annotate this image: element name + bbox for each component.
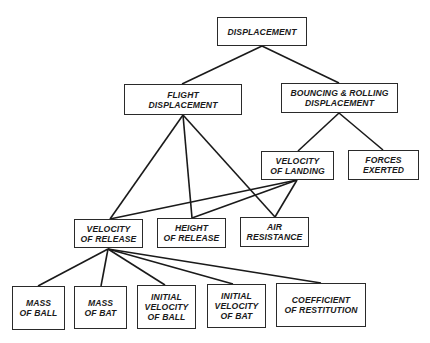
edge-displacement-to-flight-displacement [182, 46, 262, 84]
node-initial-velocity-of-bat: INITIAL VELOCITY OF BAT [207, 284, 266, 328]
node-velocity-of-landing: VELOCITY OF LANDING [261, 151, 334, 180]
edge-velocity-of-landing-to-air-resistance [275, 180, 297, 217]
node-flight-displacement: FLIGHT DISPLACEMENT [124, 84, 242, 115]
node-bouncing-rolling-displacement: BOUNCING & ROLLING DISPLACEMENT [281, 83, 398, 113]
node-coefficient-of-restitution: COEFFICIENT OF RESTITUTION [276, 283, 366, 327]
node-displacement: DISPLACEMENT [217, 17, 307, 46]
node-mass-of-bat: MASS OF BAT [74, 286, 127, 329]
edge-velocity-of-release-to-mass-of-ball [38, 249, 108, 286]
edge-velocity-of-release-to-mass-of-bat [101, 249, 108, 286]
node-forces-exerted: FORCES EXERTED [348, 150, 419, 180]
edge-velocity-of-release-to-initial-velocity-of-ball [108, 249, 165, 285]
node-velocity-of-release: VELOCITY OF RELEASE [74, 219, 143, 248]
node-initial-velocity-of-ball: INITIAL VELOCITY OF BALL [137, 285, 196, 329]
edge-bouncing-rolling-displacement-to-velocity-of-landing [298, 113, 339, 151]
node-mass-of-ball: MASS OF BALL [12, 286, 65, 330]
edge-displacement-to-bouncing-rolling-displacement [262, 46, 339, 83]
edge-bouncing-rolling-displacement-to-forces-exerted [339, 113, 383, 150]
edge-velocity-of-release-to-coefficient-of-restitution [108, 249, 321, 283]
node-air-resistance: AIR RESISTANCE [240, 217, 309, 247]
node-height-of-release: HEIGHT OF RELEASE [157, 218, 226, 248]
edge-flight-displacement-to-velocity-of-release [110, 115, 183, 219]
